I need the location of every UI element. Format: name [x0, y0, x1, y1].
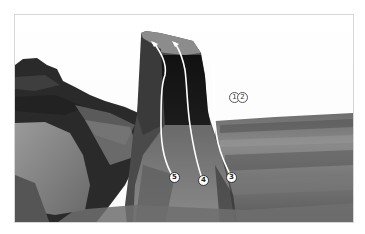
- route-marker-5: 5: [169, 172, 180, 183]
- route-marker-2: 2: [237, 92, 248, 103]
- route-marker-3: 3: [226, 172, 237, 183]
- topo-photo: [15, 15, 354, 223]
- topo-photo-frame: 5 4 3 1 2: [14, 14, 354, 223]
- route-marker-4: 4: [198, 175, 209, 186]
